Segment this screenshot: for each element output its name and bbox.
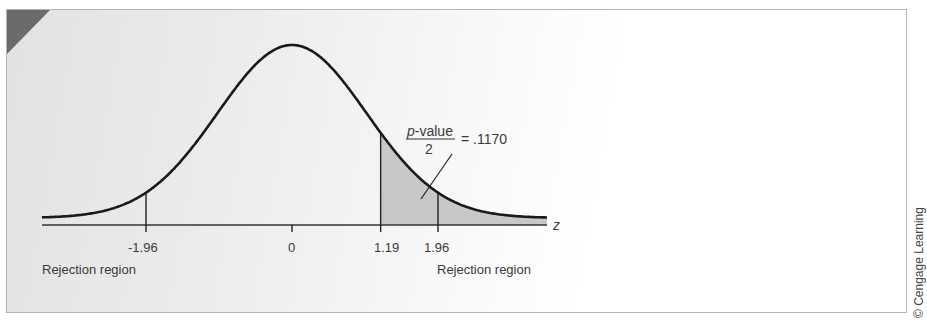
annotation-denominator: 2 (425, 141, 433, 157)
p-italic: p (407, 123, 415, 139)
corner-triangle (7, 10, 50, 54)
numerator-rest: -value (415, 123, 453, 139)
right-rejection-region-label: Rejection region (437, 262, 531, 277)
tick-label-119: 1.19 (374, 240, 399, 255)
annotation-equals: = .1170 (461, 131, 507, 147)
tick-label-neg196: -1.96 (128, 240, 158, 255)
z-axis-label: z (553, 217, 560, 233)
normal-curve-plot (0, 0, 927, 326)
tick-label-zero: 0 (288, 240, 295, 255)
left-rejection-region-label: Rejection region (42, 262, 136, 277)
copyright-notice: © Cengage Learning (912, 207, 926, 318)
tick-label-196: 1.96 (424, 240, 449, 255)
annotation-numerator: p-value (407, 123, 453, 139)
